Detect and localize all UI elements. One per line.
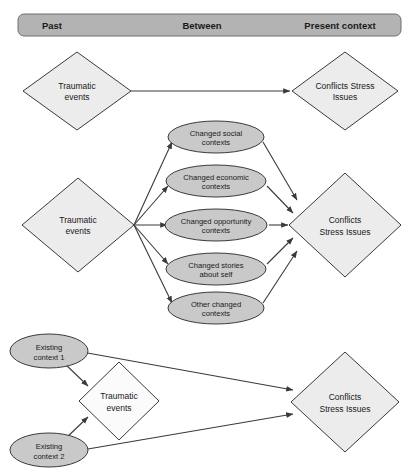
- node-label-line1: Traumatic: [100, 391, 138, 401]
- node-label-line2: events: [64, 92, 89, 102]
- node-label-line2: contexts: [202, 226, 230, 235]
- node-label-line2: Stress Issues: [319, 404, 370, 414]
- node-label-line1: Changed stories: [188, 261, 244, 270]
- node-r3-existing-context-1: Existing context 1: [10, 334, 88, 368]
- node-label-line2: about self: [200, 270, 234, 279]
- node-label-line2: events: [65, 226, 90, 236]
- node-label-line1: Changed economic: [183, 173, 249, 182]
- node-label-line1: Conflicts Stress: [315, 81, 374, 91]
- edge-r2-changed-stories-to-conflicts: [267, 238, 293, 264]
- edge-r2-trauma-to-changed-economic: [134, 186, 168, 225]
- diamond-shape: [79, 362, 159, 440]
- header-bar: Past Between Present context: [18, 14, 401, 36]
- node-label-line2: Stress Issues: [319, 227, 370, 237]
- node-label-line2: events: [106, 403, 131, 413]
- node-label-line2: Issues: [333, 92, 358, 102]
- edge-r2-changed-social-to-conflicts: [263, 142, 297, 200]
- node-r3-conflicts-stress-issues: Conflicts Stress Issues: [291, 352, 399, 452]
- node-label-line1: Conflicts: [329, 215, 362, 225]
- node-r2-changed-economic-contexts: Changed economic contexts: [166, 165, 266, 197]
- row-2: Traumatic events Changed social contexts…: [22, 121, 401, 324]
- node-r2-changed-stories-about-self: Changed stories about self: [166, 253, 266, 285]
- process-diagram: Past Between Present context Traumatic e…: [0, 0, 413, 475]
- edge-r2-trauma-to-changed-stories: [134, 225, 168, 264]
- node-r1-conflicts-stress-issues: Conflicts Stress Issues: [292, 52, 398, 130]
- node-label-line2: contexts: [202, 182, 230, 191]
- node-r2-other-changed-contexts: Other changed contexts: [168, 292, 264, 324]
- row-3: Existing context 1 Existing context 2 Tr…: [10, 334, 399, 467]
- node-label-line1: Traumatic: [58, 81, 96, 91]
- node-label-line2: context 2: [34, 452, 65, 461]
- diamond-shape: [292, 52, 398, 130]
- node-label-line1: Changed opportunity: [181, 217, 252, 226]
- node-r2-conflicts-stress-issues: Conflicts Stress Issues: [289, 173, 401, 277]
- node-label-line1: Conflicts: [329, 392, 362, 402]
- edge-r2-changed-economic-to-conflicts: [267, 186, 293, 213]
- diamond-shape: [291, 352, 399, 452]
- node-r3-traumatic-events: Traumatic events: [79, 362, 159, 440]
- node-label-line2: context 1: [34, 353, 65, 362]
- node-r2-traumatic-events: Traumatic events: [22, 178, 134, 272]
- header-label-present-context: Present context: [304, 20, 376, 31]
- node-r2-changed-opportunity-contexts: Changed opportunity contexts: [165, 209, 267, 241]
- node-label-line2: contexts: [202, 309, 230, 318]
- header-label-past: Past: [42, 20, 63, 31]
- node-r3-existing-context-2: Existing context 2: [10, 433, 88, 467]
- node-r1-traumatic-events: Traumatic events: [23, 52, 131, 130]
- diamond-shape: [289, 173, 401, 277]
- edge-r2-trauma-to-other-changed: [134, 225, 172, 303]
- node-label-line2: contexts: [202, 138, 230, 147]
- header-label-between: Between: [182, 20, 221, 31]
- node-label-line1: Traumatic: [59, 215, 97, 225]
- row-1: Traumatic events Conflicts Stress Issues: [23, 52, 398, 130]
- node-r2-changed-social-contexts: Changed social contexts: [168, 121, 264, 153]
- node-label-line1: Existing: [36, 343, 63, 352]
- edge-r2-other-changed-to-conflicts: [263, 251, 297, 303]
- node-label-line1: Changed social: [190, 129, 243, 138]
- node-label-line1: Existing: [36, 442, 63, 451]
- diamond-shape: [22, 178, 134, 272]
- diamond-shape: [23, 52, 131, 130]
- node-label-line1: Other changed: [191, 300, 241, 309]
